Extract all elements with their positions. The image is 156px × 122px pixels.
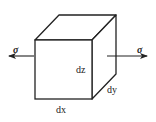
cube-stress-diagram: σ σ dz dy dx [0,0,156,122]
dz-label: dz [76,64,86,75]
dy-label: dy [107,84,117,95]
sigma-left-label: σ [13,44,19,55]
dx-label: dx [56,104,66,115]
sigma-right-label: σ [137,44,143,55]
